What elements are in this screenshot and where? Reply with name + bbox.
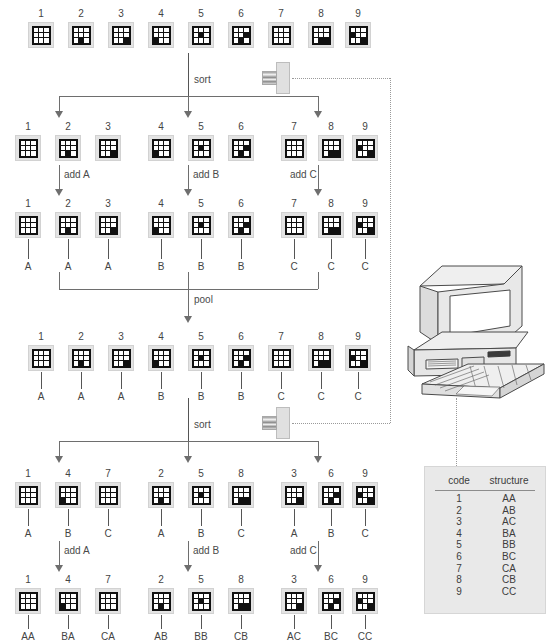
bead-tile[interactable] xyxy=(108,345,134,371)
bead-tile[interactable] xyxy=(15,588,41,614)
bead-tile[interactable] xyxy=(318,588,344,614)
bead-tile[interactable] xyxy=(68,22,94,48)
bead-tile[interactable] xyxy=(228,212,254,238)
sort2-stem xyxy=(188,398,189,441)
addC1-stem xyxy=(318,165,319,190)
bead-tile[interactable] xyxy=(352,588,378,614)
pool-label: pool xyxy=(194,295,213,305)
bead-tile[interactable] xyxy=(228,22,254,48)
tag-connector xyxy=(331,509,332,526)
bead-tile[interactable] xyxy=(188,135,214,161)
bead-tile[interactable] xyxy=(15,212,41,238)
cell-structure: BA xyxy=(483,528,535,540)
bead-tile[interactable] xyxy=(268,345,294,371)
barcode-scanner-bottom[interactable] xyxy=(262,407,292,439)
bead-tile[interactable] xyxy=(352,135,378,161)
column-number: 5 xyxy=(188,122,214,132)
column-number: 7 xyxy=(95,469,121,479)
bead-tile[interactable] xyxy=(95,482,121,508)
diagram-canvas: 123456789 sort 123456789 add A add B add… xyxy=(0,0,551,641)
table-row: 6BC xyxy=(425,551,545,563)
bead-tile[interactable] xyxy=(148,22,174,48)
bead-tile[interactable] xyxy=(228,345,254,371)
bead-tile[interactable] xyxy=(188,345,214,371)
bead-tile[interactable] xyxy=(228,135,254,161)
tag-label: C xyxy=(343,392,373,402)
bead-tile[interactable] xyxy=(95,212,121,238)
column-number: 9 xyxy=(352,199,378,209)
bead-tile[interactable] xyxy=(95,588,121,614)
code-chip-icon xyxy=(349,349,368,368)
tag-label: B xyxy=(316,529,346,539)
bead-tile[interactable] xyxy=(28,345,54,371)
addA1-label: add A xyxy=(64,170,90,180)
header-code: code xyxy=(435,475,483,486)
bead-tile[interactable] xyxy=(28,22,54,48)
bead-tile[interactable] xyxy=(281,588,307,614)
bead-tile[interactable] xyxy=(281,482,307,508)
column-number: 8 xyxy=(228,575,254,585)
code-chip-icon xyxy=(356,486,375,505)
column-number: 6 xyxy=(318,575,344,585)
column-number: 3 xyxy=(281,575,307,585)
bead-tile[interactable] xyxy=(228,482,254,508)
tag-connector xyxy=(201,372,202,389)
bead-tile[interactable] xyxy=(55,482,81,508)
cell-code: 3 xyxy=(435,516,483,528)
bead-tile[interactable] xyxy=(148,345,174,371)
bead-tile[interactable] xyxy=(188,22,214,48)
bead-tile[interactable] xyxy=(308,345,334,371)
bead-tile[interactable] xyxy=(268,22,294,48)
column-number: 2 xyxy=(68,9,94,19)
bead-tile[interactable] xyxy=(281,135,307,161)
bead-tile[interactable] xyxy=(95,135,121,161)
bead-tile[interactable] xyxy=(15,135,41,161)
code-chip-icon xyxy=(322,486,341,505)
tag-label: C xyxy=(266,392,296,402)
bead-tile[interactable] xyxy=(188,482,214,508)
bead-tile[interactable] xyxy=(352,482,378,508)
pool-riser-c xyxy=(318,272,319,289)
tag-connector xyxy=(365,615,366,629)
bead-tile[interactable] xyxy=(308,22,334,48)
bead-tile[interactable] xyxy=(228,588,254,614)
tag-label: C xyxy=(316,262,346,272)
bead-tile[interactable] xyxy=(318,212,344,238)
bead-tile[interactable] xyxy=(281,212,307,238)
addA1-stem xyxy=(59,165,60,190)
tag-connector xyxy=(281,372,282,389)
column-number: 4 xyxy=(148,9,174,19)
tag-label: BB xyxy=(186,632,216,641)
cell-code: 4 xyxy=(435,528,483,540)
bead-tile[interactable] xyxy=(55,588,81,614)
code-chip-icon xyxy=(59,592,78,611)
bead-tile[interactable] xyxy=(108,22,134,48)
bead-tile[interactable] xyxy=(148,482,174,508)
bead-tile[interactable] xyxy=(188,588,214,614)
bead-tile[interactable] xyxy=(318,135,344,161)
bead-tile[interactable] xyxy=(148,135,174,161)
column-number: 9 xyxy=(352,469,378,479)
bead-tile[interactable] xyxy=(345,345,371,371)
bead-tile[interactable] xyxy=(55,135,81,161)
barcode-scanner-top[interactable] xyxy=(262,62,292,94)
column-number: 7 xyxy=(268,332,294,342)
column-number: 4 xyxy=(55,575,81,585)
tag-label: AC xyxy=(279,632,309,641)
bead-tile[interactable] xyxy=(55,212,81,238)
bead-tile[interactable] xyxy=(15,482,41,508)
bead-tile[interactable] xyxy=(148,212,174,238)
table-row: 4BA xyxy=(425,528,545,540)
tag-connector xyxy=(365,509,366,526)
column-number: 6 xyxy=(228,122,254,132)
bead-tile[interactable] xyxy=(148,588,174,614)
bead-tile[interactable] xyxy=(352,212,378,238)
tag-connector xyxy=(241,509,242,526)
bead-tile[interactable] xyxy=(318,482,344,508)
bead-tile[interactable] xyxy=(345,22,371,48)
bead-tile[interactable] xyxy=(68,345,94,371)
column-number: 1 xyxy=(28,332,54,342)
bead-tile[interactable] xyxy=(188,212,214,238)
column-number: 9 xyxy=(345,9,371,19)
addC1-label: add C xyxy=(290,170,317,180)
